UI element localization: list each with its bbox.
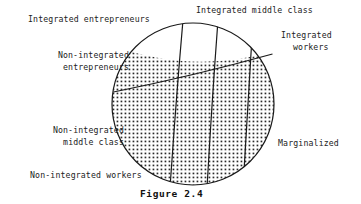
label-integrated-entrepreneurs: Integrated entrepreneurs — [28, 14, 150, 26]
label-integrated-workers-line-2: workers — [281, 42, 332, 54]
label-non-integrated-middle-class: Non-integrated middle class — [6, 125, 124, 148]
label-non-integrated-entrepreneurs: Non-integrated entrepreneurs — [11, 50, 129, 73]
label-non-integrated-middle-class-line-2: middle class — [6, 137, 124, 149]
label-integrated-workers-line-1: Integrated — [281, 30, 332, 42]
label-non-integrated-workers: Non-integrated workers — [30, 170, 142, 182]
label-non-integrated-entrepreneurs-line-1: Non-integrated — [11, 50, 129, 62]
figure-2-4: Integrated entrepreneurs Integrated midd… — [0, 0, 361, 204]
label-non-integrated-middle-class-line-1: Non-integrated — [6, 125, 124, 137]
label-integrated-middle-class: Integrated middle class — [196, 5, 313, 17]
figure-caption: Figure 2.4 — [140, 188, 203, 199]
label-integrated-workers: Integrated workers — [281, 30, 332, 53]
label-non-integrated-entrepreneurs-line-2: entrepreneurs — [11, 62, 129, 74]
label-marginalized: Marginalized — [278, 138, 339, 150]
